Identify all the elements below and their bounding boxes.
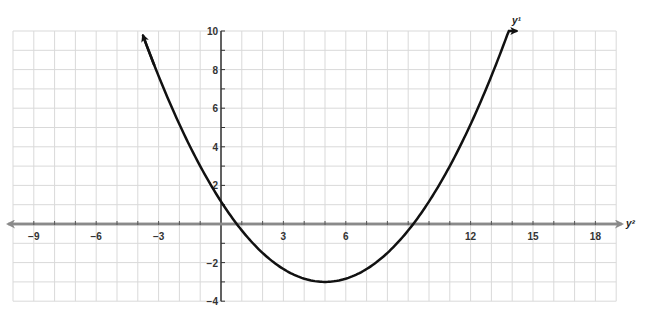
y-tick-label: −4 (207, 296, 219, 307)
x-tick-label: 15 (527, 231, 539, 242)
y-tick-label: 10 (207, 26, 219, 37)
x-tick-label: 12 (465, 231, 477, 242)
y-tick-label: −2 (207, 258, 219, 269)
x-tick-label: 6 (343, 231, 349, 242)
x-tick-label: −9 (28, 231, 40, 242)
y-tick-label: 8 (212, 65, 218, 76)
x-axis-label: y² (625, 218, 636, 229)
x-axis: −9−6−336121518 (8, 221, 622, 242)
grid-lines (13, 31, 616, 301)
parabola-curve (143, 31, 516, 282)
x-tick-label: 18 (590, 231, 602, 242)
x-tick-label: −3 (153, 231, 165, 242)
parabola-chart: 108642−2−4 −9−6−336121518 y² y¹ (0, 0, 650, 314)
y-tick-label: 4 (212, 142, 218, 153)
y-tick-label: 6 (212, 103, 218, 114)
x-tick-label: −6 (90, 231, 102, 242)
y-axis-label: y¹ (511, 15, 522, 26)
x-tick-label: 3 (281, 231, 287, 242)
